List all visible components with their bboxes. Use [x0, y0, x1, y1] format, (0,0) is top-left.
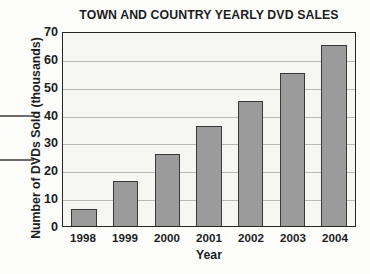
bar-2003[interactable] — [280, 73, 305, 226]
bar-slot-2002 — [230, 33, 272, 226]
y-tick-label-10: 10 — [44, 192, 58, 206]
y-tick-label-50: 50 — [44, 81, 58, 95]
y-tick-label-30: 30 — [44, 136, 58, 150]
y-axis-tick-labels: 010203040506070 — [30, 32, 58, 227]
bar-slot-2000 — [146, 33, 188, 226]
y-tick-label-60: 60 — [44, 53, 58, 67]
bar-slot-1999 — [105, 33, 147, 226]
x-axis-tick-labels: 1998199920002001200220032004 — [62, 231, 356, 244]
x-tick-label-2003: 2003 — [272, 231, 314, 244]
x-tick-label-1998: 1998 — [62, 231, 104, 244]
bars-container — [63, 33, 355, 226]
bar-2001[interactable] — [196, 126, 221, 226]
x-tick-label-2001: 2001 — [188, 231, 230, 244]
bar-1999[interactable] — [113, 181, 138, 226]
bar-2000[interactable] — [155, 154, 180, 226]
bar-slot-2001 — [188, 33, 230, 226]
x-axis-title: Year — [62, 248, 356, 262]
bar-2002[interactable] — [238, 101, 263, 226]
chart-title: TOWN AND COUNTRY YEARLY DVD SALES — [62, 8, 356, 22]
bar-2004[interactable] — [321, 45, 346, 226]
bar-slot-2004 — [313, 33, 355, 226]
bar-slot-1998 — [63, 33, 105, 226]
y-tick-label-20: 20 — [44, 164, 58, 178]
plot-area — [62, 32, 356, 227]
y-tick-label-0: 0 — [51, 220, 58, 234]
x-tick-label-1999: 1999 — [104, 231, 146, 244]
x-tick-label-2000: 2000 — [146, 231, 188, 244]
bar-slot-2003 — [272, 33, 314, 226]
bar-1998[interactable] — [71, 209, 96, 226]
x-tick-label-2002: 2002 — [230, 231, 272, 244]
y-tick-label-40: 40 — [44, 109, 58, 123]
bar-chart-figure: TOWN AND COUNTRY YEARLY DVD SALES Number… — [0, 0, 370, 274]
x-tick-label-2004: 2004 — [314, 231, 356, 244]
y-tick-label-70: 70 — [44, 25, 58, 39]
